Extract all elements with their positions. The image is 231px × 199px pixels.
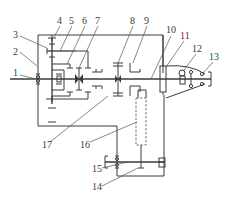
front-output-shaft: [105, 156, 165, 168]
housing-frame: [38, 35, 164, 176]
label-12: 12: [192, 43, 202, 54]
label-6: 6: [82, 15, 87, 26]
synchronizer-1: [75, 68, 83, 90]
transmission-diagram: 1 2 3 4 5 6 7 8 9 10 11 12 13 14 15 16 1…: [0, 0, 231, 199]
label-9: 9: [144, 15, 149, 26]
label-11: 11: [180, 30, 190, 41]
label-10: 10: [166, 24, 176, 35]
transfer-chain: [136, 90, 146, 162]
label-7: 7: [95, 15, 100, 26]
label-4: 4: [57, 15, 62, 26]
label-15: 15: [92, 163, 102, 174]
label-8: 8: [130, 15, 135, 26]
label-13: 13: [209, 51, 219, 62]
label-2: 2: [13, 46, 18, 57]
input-shaft: [10, 74, 163, 84]
label-16: 16: [80, 139, 90, 150]
gears-6-7: [52, 51, 91, 99]
label-17: 17: [42, 139, 52, 150]
label-5: 5: [69, 15, 74, 26]
label-1: 1: [13, 67, 18, 78]
output-section: [160, 35, 211, 98]
clutch-box: [52, 70, 64, 90]
label-3: 3: [13, 29, 18, 40]
label-14: 14: [92, 181, 102, 192]
